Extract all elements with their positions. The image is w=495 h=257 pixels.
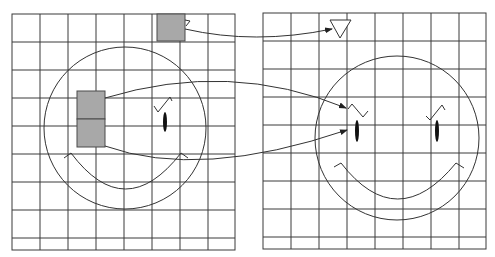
right-face-left-eye [355,120,359,142]
right-eyebrow-icon [154,97,172,112]
right-smiley-face [315,56,479,220]
right-eyebrow-icon [426,105,445,120]
left-face-right-eye [163,112,167,132]
triangle-edge-peek [185,20,190,26]
arrow-eye [105,130,347,160]
diagram-canvas [0,0,495,257]
arrow-triangle [185,29,332,37]
left-grid [12,14,235,250]
patch-upper [77,91,105,119]
arrow-eyebrow [105,81,346,108]
patch-lower [77,119,105,147]
left-eyebrow-icon [348,104,368,117]
right-face-right-eye [435,120,439,142]
patch-top [157,14,185,41]
right-grid [263,13,486,249]
triangle-shape [330,20,351,38]
